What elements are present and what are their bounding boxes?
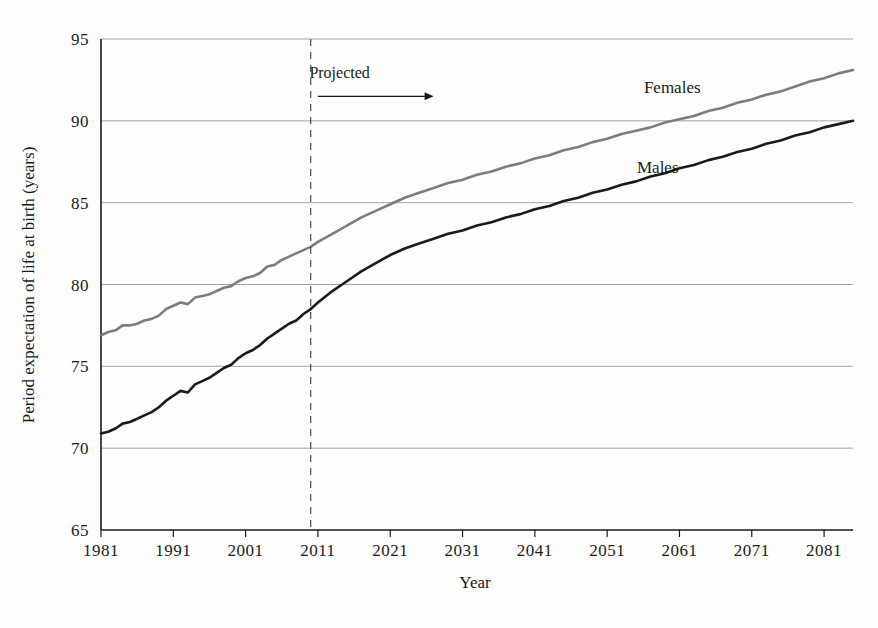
x-tick-label-1981: 1981	[83, 541, 119, 560]
x-tick-label-2081: 2081	[806, 541, 842, 560]
x-tick-label-2071: 2071	[734, 541, 770, 560]
series-label-females: Females	[644, 78, 701, 97]
life-expectancy-chart: 65707580859095 1981199120012011202120312…	[0, 0, 878, 628]
y-tick-label-95: 95	[71, 30, 89, 49]
y-tick-label-85: 85	[71, 194, 89, 213]
projection-note-label: Projected	[309, 64, 369, 82]
y-tick-label-65: 65	[71, 521, 89, 540]
x-tick-label-2051: 2051	[589, 541, 625, 560]
x-tick-label-2041: 2041	[517, 541, 553, 560]
x-tick-label-2011: 2011	[300, 541, 335, 560]
chart-figure: 65707580859095 1981199120012011202120312…	[0, 0, 878, 628]
x-tick-label-2061: 2061	[661, 541, 697, 560]
y-tick-label-80: 80	[71, 276, 89, 295]
figure-background	[0, 0, 878, 628]
y-tick-label-90: 90	[71, 112, 89, 131]
x-tick-label-2021: 2021	[372, 541, 408, 560]
x-tick-label-2001: 2001	[228, 541, 264, 560]
y-tick-label-70: 70	[71, 439, 89, 458]
x-tick-label-2031: 2031	[445, 541, 481, 560]
y-axis-title: Period expectation of life at birth (yea…	[19, 147, 38, 424]
series-label-males: Males	[637, 158, 679, 177]
x-tick-label-1991: 1991	[155, 541, 191, 560]
y-tick-label-75: 75	[71, 357, 89, 376]
x-axis-title: Year	[459, 573, 491, 592]
